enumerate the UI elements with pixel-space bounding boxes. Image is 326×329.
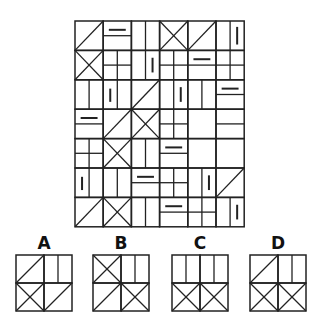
grid-cell: [216, 197, 244, 226]
grid-cell: [75, 80, 103, 109]
grid-cell: [103, 168, 131, 197]
answer-options: [16, 255, 306, 311]
grid-cell: [131, 21, 159, 50]
grid-cell: [188, 21, 216, 50]
matrix-grid: [75, 21, 244, 227]
grid-cell: [188, 50, 216, 79]
grid-cell: [188, 168, 216, 197]
grid-cell: [160, 80, 188, 109]
grid-cell: [188, 139, 216, 168]
grid-cell: [103, 109, 131, 138]
grid-cell: [216, 168, 244, 197]
grid-cell: [131, 197, 159, 226]
grid-cell: [160, 168, 188, 197]
grid-cell: [103, 80, 131, 109]
grid-cell: [131, 139, 159, 168]
grid-cell: [75, 197, 103, 226]
grid-cell: [75, 21, 103, 50]
grid-cell: [75, 139, 103, 168]
grid-cell: [103, 139, 131, 168]
puzzle-figure: [0, 0, 326, 329]
grid-cell: [75, 109, 103, 138]
grid-cell: [216, 109, 244, 138]
grid-cell: [216, 21, 244, 50]
grid-cell: [160, 139, 188, 168]
option-c-label: C: [182, 233, 218, 253]
grid-cell: [188, 197, 216, 226]
grid-cell: [131, 80, 159, 109]
grid-cell: [103, 21, 131, 50]
option-a-figure[interactable]: [16, 255, 72, 311]
grid-cell: [103, 50, 131, 79]
grid-cell: [188, 109, 216, 138]
grid-cell: [160, 197, 188, 226]
option-d-label: D: [260, 233, 296, 253]
grid-cell: [131, 168, 159, 197]
grid-cell: [160, 109, 188, 138]
grid-cell: [75, 50, 103, 79]
option-a-label: A: [26, 233, 62, 253]
grid-cell: [216, 50, 244, 79]
grid-cell: [131, 50, 159, 79]
grid-cell: [103, 197, 131, 226]
option-d-figure[interactable]: [250, 255, 306, 311]
grid-cell: [75, 168, 103, 197]
option-b-figure[interactable]: [93, 255, 149, 311]
grid-cell: [160, 50, 188, 79]
option-b-label: B: [103, 233, 139, 253]
grid-cell: [216, 80, 244, 109]
grid-cell: [160, 21, 188, 50]
grid-cell: [216, 139, 244, 168]
grid-cell: [131, 109, 159, 138]
option-c-figure[interactable]: [172, 255, 228, 311]
grid-cell: [188, 80, 216, 109]
